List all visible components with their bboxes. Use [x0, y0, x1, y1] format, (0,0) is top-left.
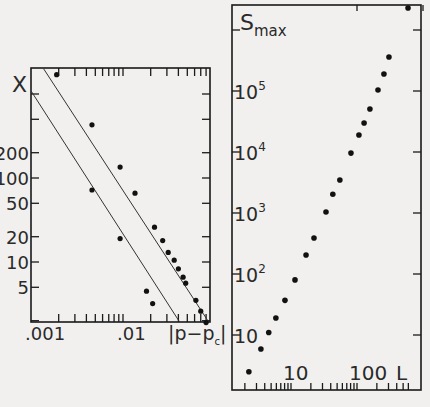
- data-point: [273, 315, 279, 321]
- data-point: [348, 150, 354, 156]
- data-point: [144, 289, 149, 294]
- right-axis-ticks: [232, 5, 423, 390]
- data-point: [89, 187, 94, 192]
- data-point: [386, 54, 392, 60]
- data-point: [282, 298, 288, 304]
- data-point: [311, 235, 317, 241]
- right-plot-frame: [232, 5, 421, 390]
- y-tick-label: 50: [6, 193, 29, 214]
- right-panel: Smax 10102103104105 10100 L: [232, 5, 423, 390]
- figure: X 5102050100200 .001.01 |p−pc| Smax 1010…: [0, 0, 430, 407]
- left-plot-frame: [31, 68, 210, 322]
- y-tick-label: 105: [234, 79, 266, 103]
- data-point: [246, 369, 252, 375]
- y-tick-label: 104: [234, 140, 266, 164]
- y-tick-label: 100: [0, 168, 29, 189]
- data-point: [330, 191, 336, 197]
- data-point: [367, 106, 373, 112]
- fit-line: [31, 91, 181, 325]
- data-point: [193, 298, 198, 303]
- data-point: [160, 238, 165, 243]
- right-y-tick-labels: 10102103104105: [234, 79, 266, 347]
- data-point: [323, 209, 329, 215]
- data-point: [132, 191, 137, 196]
- data-point: [266, 330, 272, 336]
- data-point: [150, 301, 155, 306]
- left-y-axis-label: X: [12, 72, 27, 97]
- data-point: [118, 236, 123, 241]
- data-point: [118, 164, 123, 169]
- data-point: [89, 122, 94, 127]
- data-point: [152, 225, 157, 230]
- left-x-axis-label: |p−pc|: [168, 322, 226, 347]
- y-tick-label: 5: [18, 277, 29, 298]
- right-x-axis-label: L: [396, 361, 408, 385]
- x-tick-label: .001: [25, 323, 65, 344]
- x-tick-label: .01: [117, 323, 146, 344]
- data-point: [292, 277, 298, 283]
- data-point: [198, 309, 203, 314]
- data-point: [375, 87, 381, 93]
- data-point: [183, 281, 188, 286]
- data-point: [381, 71, 387, 77]
- y-tick-label: 10: [6, 252, 29, 273]
- y-tick-label: 103: [234, 201, 266, 225]
- right-x-tick-labels: 10100: [283, 361, 387, 385]
- left-fit-lines: [31, 69, 210, 325]
- right-data-points: [246, 5, 411, 374]
- y-tick-label: 20: [6, 227, 29, 248]
- data-point: [303, 252, 309, 258]
- y-tick-label: 10: [234, 325, 258, 347]
- data-point: [166, 250, 171, 255]
- y-tick-label: 102: [234, 262, 266, 286]
- data-point: [405, 5, 411, 11]
- data-point: [176, 266, 181, 271]
- right-y-axis-label: Smax: [240, 10, 287, 40]
- data-point: [180, 275, 185, 280]
- data-point: [258, 346, 264, 352]
- left-axis-ticks: [31, 68, 210, 322]
- data-point: [337, 177, 343, 183]
- data-point: [361, 120, 367, 126]
- data-point: [172, 258, 177, 263]
- left-y-tick-labels: 5102050100200: [0, 143, 29, 299]
- data-point: [54, 72, 59, 77]
- x-tick-label: 10: [283, 361, 308, 385]
- data-point: [356, 132, 362, 138]
- left-panel: X 5102050100200 .001.01 |p−pc|: [0, 68, 226, 347]
- x-tick-label: 100: [349, 361, 387, 385]
- y-tick-label: 200: [0, 143, 29, 164]
- fit-line: [44, 69, 211, 325]
- left-x-tick-labels: .001.01: [25, 323, 146, 344]
